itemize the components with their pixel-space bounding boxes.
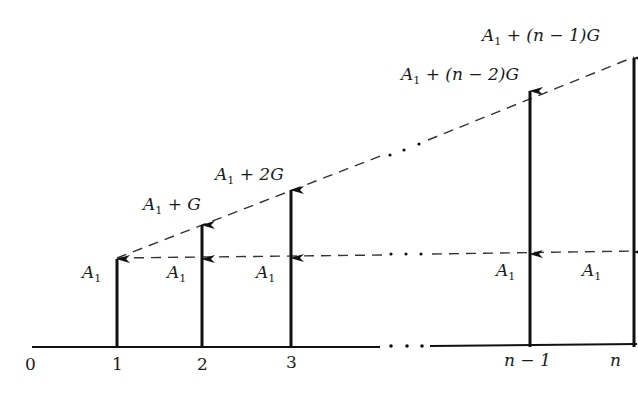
base-label-period-3: A1 [256,264,275,284]
top-label-period-3: A1 + 2G [215,166,284,186]
top-label-period-n-1: A1 + (n − 2)G [401,66,519,86]
cash-flow-diagram [0,0,638,395]
label-rest: + (n − 2)G [420,64,519,84]
tick-label-3: 3 [286,354,297,371]
symbol: A [215,164,227,184]
gradient-dashed-line [117,57,634,258]
subscript: 1 [268,272,275,285]
subscript: 1 [594,270,601,283]
subscript: 1 [94,272,101,285]
top-label-period-2: A1 + G [143,196,201,216]
symbol: A [401,64,413,84]
symbol: A [82,262,94,282]
symbol: A [143,194,155,214]
symbol: A [496,260,508,280]
tick-label-1: 1 [112,356,123,373]
tick-label-0: 0 [25,356,36,373]
top-label-period-n: A1 + (n − 1)G [482,27,600,47]
base-label-period-1: A1 [82,264,101,284]
symbol: A [167,262,179,282]
tick-label-n-minus-1: n − 1 [504,352,551,369]
subscript: 1 [179,272,186,285]
symbol: A [482,25,494,45]
subscript: 1 [508,270,515,283]
time-axis [32,344,637,348]
base-level-dashed-line [117,251,636,258]
tick-label-2: 2 [197,356,208,373]
label-rest: + (n − 1)G [501,25,600,45]
symbol: A [582,260,594,280]
base-label-period-2: A1 [167,264,186,284]
label-rest: + 2G [234,164,283,184]
base-label-period-n-1: A1 [496,262,515,282]
base-label-period-n: A1 [582,262,601,282]
tick-label-n: n [610,352,621,369]
label-rest: + G [162,194,201,214]
symbol: A [256,262,268,282]
